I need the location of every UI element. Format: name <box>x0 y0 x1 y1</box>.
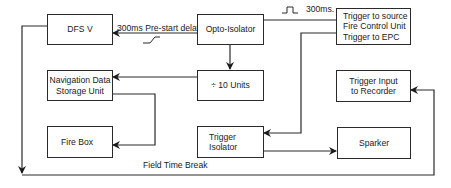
trigger-input-recorder-box: Trigger Input to Recorder <box>336 70 411 102</box>
ramp-pulse-icon <box>143 37 160 43</box>
dfs-v-label: DFS V <box>67 24 92 35</box>
navigation-data-line2: Storage Unit <box>49 86 110 97</box>
pulse-duration-label: 300ms. <box>306 4 334 14</box>
block-diagram: 300ms Pre-start delay 300ms. Field Time … <box>0 0 451 188</box>
divide-ten-units-label: ÷ 10 Units <box>211 80 250 91</box>
sparker-box: Sparker <box>337 127 411 159</box>
trigger-source-box: Trigger to source Fire Control Unit Trig… <box>336 8 411 45</box>
trigger-source-line1: Trigger to source <box>343 11 408 22</box>
field-time-break-label: Field Time Break <box>143 160 207 170</box>
fire-box: Fire Box <box>47 126 113 158</box>
trigger-source-line2: Fire Control Unit <box>343 21 408 32</box>
trigger-isolator-line1: Trigger <box>209 132 237 143</box>
dfs-v-box: DFS V <box>47 14 113 45</box>
navigation-data-box: Navigation Data Storage Unit <box>47 70 113 101</box>
opto-isolator-label: Opto-Isolator <box>206 24 256 35</box>
navigation-data-line1: Navigation Data <box>49 75 110 86</box>
edge-dfs-down <box>22 26 47 173</box>
prestart-delay-label: 300ms Pre-start delay <box>117 23 201 33</box>
divide-ten-units-box: ÷ 10 Units <box>197 70 264 101</box>
trigger-input-line2: to Recorder <box>349 86 397 97</box>
edge-trigger-source-to-isolator <box>264 33 336 133</box>
trigger-isolator-box: Trigger Isolator <box>197 126 264 158</box>
edge-nav-to-firebox <box>112 94 155 145</box>
sparker-label: Sparker <box>359 138 389 149</box>
fire-box-label: Fire Box <box>61 137 93 148</box>
trigger-source-line3: Trigger to EPC <box>343 32 408 43</box>
trigger-isolator-line2: Isolator <box>209 142 237 153</box>
trigger-input-line1: Trigger Input <box>349 76 397 87</box>
opto-isolator-box: Opto-Isolator <box>197 14 264 45</box>
square-pulse-icon <box>282 7 298 13</box>
